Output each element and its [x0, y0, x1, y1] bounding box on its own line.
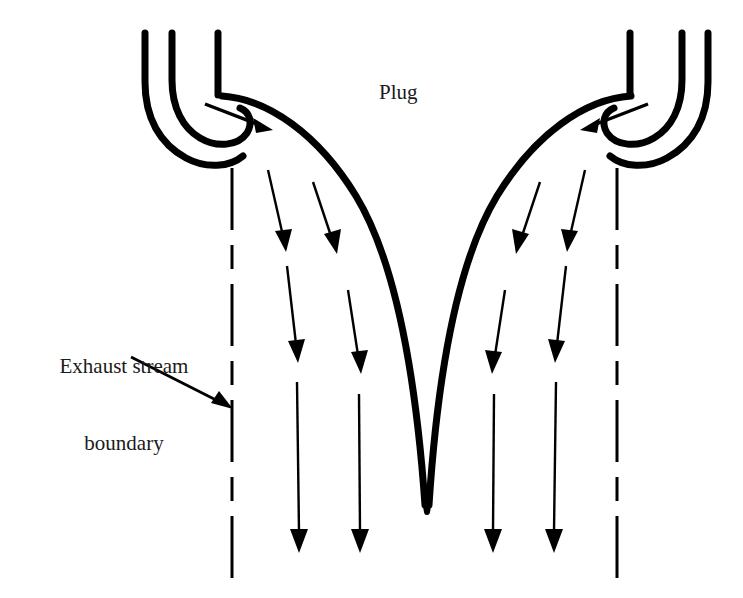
- left-inlet-flow-arrow-head: [253, 118, 273, 133]
- exhaust-arrow-head-r5: [545, 529, 563, 553]
- exhaust-arrow-shaft-r5: [554, 382, 556, 532]
- exhaust-arrow-head-l6: [351, 529, 369, 553]
- exhaust-arrow-head-r1: [561, 229, 578, 252]
- exhaust-arrow-shaft-l1: [268, 170, 283, 236]
- left-nozzle-inner-wall: [172, 33, 250, 144]
- diagram-canvas: [0, 0, 743, 598]
- exhaust-stream-boundary-label: Exhaust stream boundary: [24, 303, 224, 508]
- right-nozzle-inner-wall: [604, 33, 682, 144]
- exhaust-stream-boundary-label-line1: Exhaust stream: [24, 354, 224, 380]
- exhaust-arrow-head-l4: [351, 350, 368, 374]
- exhaust-arrow-shaft-r3: [557, 266, 566, 344]
- exhaust-arrow-shaft-l6: [359, 394, 360, 532]
- left-inlet-flow-arrow-shaft: [205, 104, 262, 126]
- exhaust-arrow-head-l5: [290, 529, 308, 553]
- plug-label: Plug: [379, 80, 418, 106]
- exhaust-arrow-head-l2: [324, 229, 341, 254]
- plug-left-contour: [222, 96, 425, 505]
- exhaust-arrow-head-r2: [512, 229, 529, 254]
- exhaust-arrow-shaft-l4: [348, 290, 358, 355]
- plug-tip: [425, 500, 429, 512]
- exhaust-arrow-shaft-l3: [287, 266, 296, 344]
- right-inlet-flow-arrow-shaft: [591, 104, 648, 126]
- exhaust-arrow-head-l3: [288, 339, 305, 363]
- right-inlet-flow-arrow-head: [580, 118, 600, 133]
- plug-nozzle-diagram: Plug Exhaust stream boundary: [0, 0, 743, 598]
- exhaust-arrow-shaft-l2: [313, 182, 332, 239]
- exhaust-arrow-shaft-r4: [495, 290, 505, 355]
- exhaust-stream-boundary-label-line2: boundary: [24, 431, 224, 457]
- exhaust-arrow-shaft-r2: [521, 182, 540, 239]
- plug-right-contour: [429, 96, 631, 505]
- exhaust-arrow-shaft-r6: [493, 394, 494, 532]
- exhaust-arrow-shaft-r1: [570, 170, 585, 236]
- exhaust-arrow-head-r3: [548, 339, 565, 363]
- exhaust-arrow-head-l1: [275, 229, 292, 252]
- exhaust-arrow-head-r4: [485, 350, 502, 374]
- exhaust-arrow-head-r6: [484, 529, 502, 553]
- exhaust-arrow-shaft-l5: [297, 382, 299, 532]
